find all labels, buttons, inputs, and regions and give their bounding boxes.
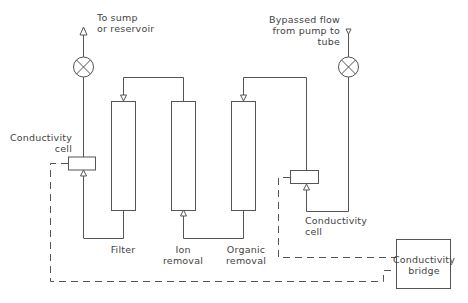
sump-label: To sump or reservoir	[97, 12, 154, 34]
ion-label: Ion removal	[158, 244, 208, 266]
ion-removal-column	[172, 102, 196, 211]
left-valve-icon	[74, 57, 94, 77]
left-conductivity-cell	[69, 157, 96, 170]
right-cell-label: Conductivity cell	[305, 215, 367, 237]
bypass-label: Bypassed flow from pump to tube	[260, 14, 340, 47]
left-cell-label: Conductivity cell	[0, 132, 72, 154]
filter-column	[112, 102, 136, 211]
organic-label: Organic removal	[221, 244, 271, 266]
bypass-arrow-icon	[346, 29, 351, 34]
sump-arrow-icon	[80, 27, 87, 35]
organic-removal-column	[232, 102, 256, 211]
filter-label: Filter	[101, 244, 145, 255]
right-valve-icon	[339, 57, 359, 77]
right-conductivity-cell	[291, 171, 319, 184]
bridge-label: Conductivity bridge	[393, 254, 455, 276]
